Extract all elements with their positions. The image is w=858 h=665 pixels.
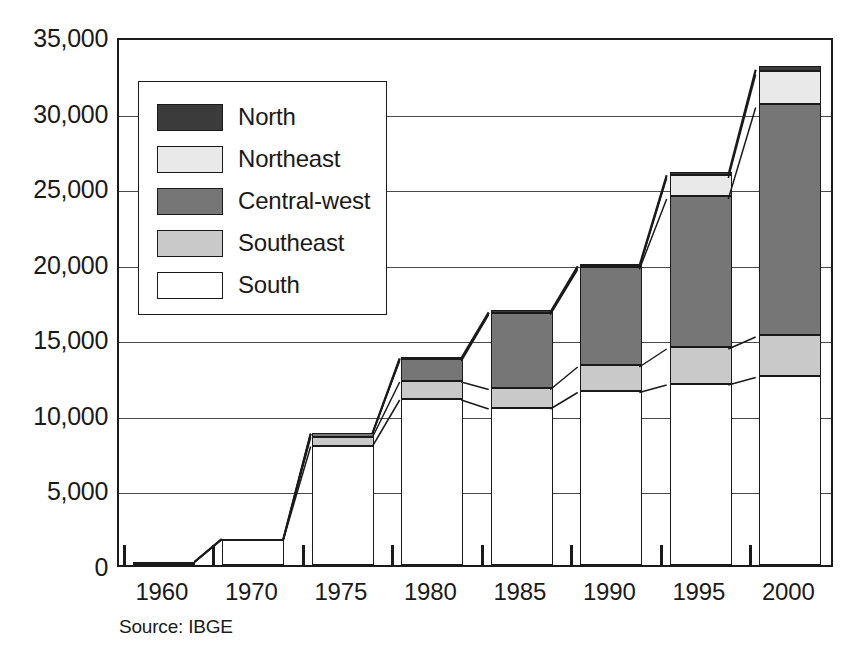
bar-segment	[759, 376, 821, 565]
connector-line	[461, 313, 488, 359]
bar-stack	[491, 36, 553, 565]
bar-segment	[401, 381, 463, 399]
x-tick-mark	[212, 545, 215, 565]
bar-segment	[759, 335, 821, 376]
bar-segment	[670, 196, 732, 347]
legend-label: Southeast	[238, 229, 344, 257]
bar-segment	[670, 384, 732, 565]
connector-line	[372, 359, 399, 434]
connector-line	[728, 70, 755, 176]
bar-segment	[133, 562, 195, 564]
bar-segment	[491, 310, 553, 312]
bar-segment	[312, 437, 374, 446]
connector-line	[550, 393, 577, 410]
bar-segment	[401, 357, 463, 359]
y-tick-label: 35,000	[0, 24, 108, 53]
connector-line	[194, 540, 221, 563]
y-tick-label: 5,000	[0, 477, 108, 506]
x-tick-label: 1960	[135, 578, 188, 606]
bar-stack	[670, 36, 732, 565]
x-tick-label: 1995	[672, 578, 725, 606]
x-tick-label: 1970	[225, 578, 278, 606]
legend-swatch-icon	[157, 104, 223, 131]
bar-segment	[491, 388, 553, 408]
bar-segment	[222, 539, 284, 565]
y-axis: 05,00010,00015,00020,00025,00030,00035,0…	[0, 0, 108, 665]
bar-segment	[670, 347, 732, 383]
legend-swatch-icon	[157, 230, 223, 257]
legend-label: Northeast	[238, 145, 340, 173]
bar-segment	[759, 66, 821, 71]
bar-segment	[759, 104, 821, 335]
bar-segment	[312, 433, 374, 437]
legend-swatch-icon	[157, 146, 223, 173]
legend-swatch-icon	[157, 188, 223, 215]
connector-line	[639, 199, 666, 270]
connector-line	[283, 434, 310, 539]
legend-item: Central-west	[157, 180, 386, 222]
source-note: Source: IBGE	[119, 616, 233, 638]
connector-line	[550, 268, 577, 313]
bar-segment	[580, 365, 642, 391]
connector-line	[194, 539, 221, 562]
y-tick-label: 25,000	[0, 175, 108, 204]
connector-line	[728, 108, 755, 200]
connector-line	[639, 349, 666, 367]
x-tick-mark	[302, 545, 305, 565]
bar-segment	[401, 359, 463, 380]
legend-item: Northeast	[157, 138, 386, 180]
y-tick-label: 0	[0, 553, 108, 582]
connector-line	[372, 400, 399, 447]
connector-line	[461, 312, 488, 358]
bar-stack	[580, 36, 642, 565]
bar-segment	[312, 446, 374, 565]
bar-segment	[670, 175, 732, 196]
bar-stack	[759, 36, 821, 565]
bar-segment	[491, 408, 553, 565]
connector-line	[194, 539, 221, 562]
x-tick-mark	[660, 545, 663, 565]
legend-item: North	[157, 96, 386, 138]
legend-label: South	[238, 271, 300, 299]
connector-line	[639, 175, 666, 266]
legend-item: Southeast	[157, 222, 386, 264]
connector-line	[639, 385, 666, 393]
x-tick-label: 1975	[314, 578, 367, 606]
x-tick-mark	[749, 545, 752, 565]
x-tick-mark	[123, 545, 126, 565]
connector-line	[550, 270, 577, 315]
connector-line	[550, 367, 577, 390]
x-tick-mark	[481, 545, 484, 565]
bar-segment	[580, 391, 642, 565]
connector-line	[283, 438, 310, 540]
connector-line	[372, 361, 399, 434]
connector-line	[372, 358, 399, 433]
x-tick-mark	[570, 545, 573, 565]
y-tick-label: 10,000	[0, 401, 108, 430]
legend-item: South	[157, 264, 386, 306]
legend-label: Central-west	[238, 187, 370, 215]
bar-segment	[401, 399, 463, 565]
bar-segment	[580, 267, 642, 365]
connector-line	[728, 75, 755, 179]
bar-segment	[222, 539, 284, 541]
connector-line	[461, 400, 488, 409]
x-tick-label: 1985	[493, 578, 546, 606]
connector-line	[372, 382, 399, 438]
connector-line	[461, 382, 488, 390]
y-tick-label: 20,000	[0, 250, 108, 279]
legend-label: North	[238, 103, 296, 131]
chart-legend: NorthNortheastCentral-westSoutheastSouth	[138, 81, 387, 315]
x-tick-label: 1990	[583, 578, 636, 606]
connector-line	[283, 434, 310, 539]
stacked-bar-chart-figure: 05,00010,00015,00020,00025,00030,00035,0…	[0, 0, 858, 665]
bar-segment	[670, 172, 732, 175]
bar-segment	[580, 264, 642, 266]
bar-segment	[491, 313, 553, 389]
connector-line	[194, 539, 221, 562]
connector-line	[550, 266, 577, 312]
legend-swatch-icon	[157, 272, 223, 299]
x-tick-label: 2000	[762, 578, 815, 606]
connector-line	[728, 378, 755, 386]
bar-stack	[401, 36, 463, 565]
